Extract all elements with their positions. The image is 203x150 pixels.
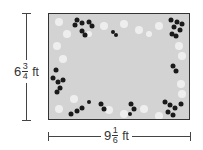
light-flowers — [53, 18, 186, 120]
width-unit: ft — [122, 129, 129, 143]
width-whole: 9 — [104, 128, 111, 143]
height-unit: ft — [32, 65, 39, 79]
flower-pattern — [49, 14, 190, 120]
height-dimension-top-cap — [22, 13, 31, 14]
rug-rectangle — [48, 13, 190, 120]
width-fraction: 1 6 — [112, 126, 118, 145]
height-label: 6 3 4 ft — [13, 60, 40, 83]
height-whole: 6 — [14, 64, 21, 79]
height-denominator: 4 — [23, 72, 28, 81]
height-numerator: 3 — [23, 62, 28, 71]
width-denominator: 6 — [113, 136, 118, 145]
width-label: 9 1 6 ft — [101, 126, 132, 145]
width-dimension-left-cap — [48, 132, 49, 141]
height-dimension-bottom-cap — [22, 120, 31, 121]
height-fraction: 3 4 — [22, 62, 28, 81]
width-dimension-right-cap — [190, 132, 191, 141]
width-numerator: 1 — [113, 126, 118, 135]
